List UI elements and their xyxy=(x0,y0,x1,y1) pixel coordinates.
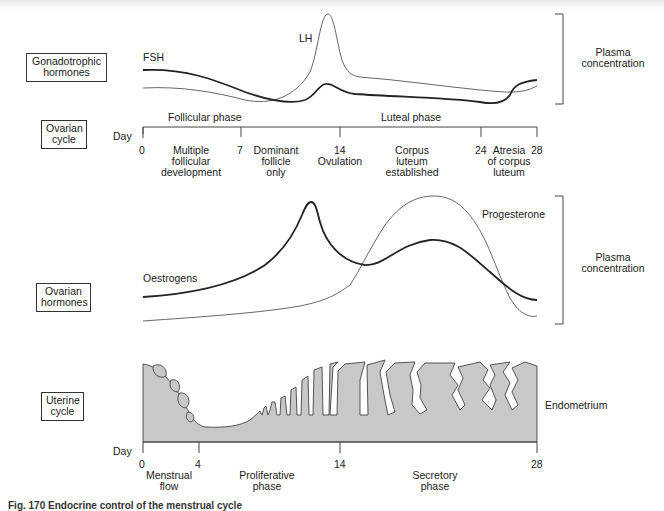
ovarian-hormones-bracket xyxy=(555,196,563,324)
label-box-uterine-cycle: Uterine cycle xyxy=(41,392,84,421)
stage-multiple-follicular: Multiple follicular development xyxy=(160,145,222,178)
stage-corpus-luteum: Corpus luteum established xyxy=(385,145,439,178)
day-label-uterine: Day xyxy=(113,446,132,457)
luteal-phase-label: Luteal phase xyxy=(381,112,441,123)
label-line: hormones xyxy=(41,297,86,308)
oestrogens-label: Oestrogens xyxy=(143,273,197,284)
uterine-tick-0: 0 xyxy=(139,459,145,470)
label-line: established xyxy=(385,167,439,178)
uterine-tick-14: 14 xyxy=(334,459,346,470)
label-line: only xyxy=(250,167,302,178)
lh-label: LH xyxy=(299,33,312,44)
label-line: flow xyxy=(143,481,195,492)
ovarian-cycle-axis xyxy=(143,127,537,138)
gonadotrophic-bracket xyxy=(555,14,563,104)
fsh-label: FSH xyxy=(143,52,164,63)
label-line: concentration xyxy=(578,263,648,274)
tick-24: 24 xyxy=(475,145,487,156)
label-line: cycle xyxy=(46,134,82,145)
label-box-gonadotrophic: Gonadotrophic hormones xyxy=(26,53,107,82)
oestrogens-curve xyxy=(143,202,537,300)
phase-menstrual-flow: Menstrual flow xyxy=(143,470,195,492)
label-line: hormones xyxy=(31,67,102,78)
endometrium-label: Endometrium xyxy=(545,400,607,411)
plasma-concentration-label-top: Plasma concentration xyxy=(578,47,648,69)
stage-atresia: Atresia of corpus luteum xyxy=(487,145,531,178)
tick-28: 28 xyxy=(531,145,543,156)
uterine-tick-4: 4 xyxy=(195,459,201,470)
stage-ovulation: Ovulation xyxy=(315,156,365,167)
follicular-phase-label: Follicular phase xyxy=(168,112,242,123)
label-line: concentration xyxy=(578,58,648,69)
uterine-day-axis xyxy=(143,442,537,453)
phase-proliferative: Proliferative phase xyxy=(236,470,298,492)
label-line: luteum xyxy=(487,167,531,178)
tick-7: 7 xyxy=(237,145,243,156)
phase-secretory: Secretory phase xyxy=(410,470,460,492)
label-line: phase xyxy=(410,481,460,492)
label-line: development xyxy=(160,167,222,178)
stage-dominant-follicle: Dominant follicle only xyxy=(250,145,302,178)
label-line: phase xyxy=(236,481,298,492)
progesterone-curve xyxy=(143,196,537,321)
endometrium-shape xyxy=(143,360,537,442)
label-line: cycle xyxy=(46,406,79,417)
figure-caption: Fig. 170 Endocrine control of the menstr… xyxy=(8,500,242,511)
plasma-concentration-label-bottom: Plasma concentration xyxy=(578,252,648,274)
label-box-ovarian-hormones: Ovarian hormones xyxy=(36,283,91,312)
uterine-tick-28: 28 xyxy=(531,459,543,470)
progesterone-label: Progesterone xyxy=(482,209,545,220)
label-box-ovarian-cycle: Ovarian cycle xyxy=(41,120,87,149)
fsh-curve xyxy=(143,70,537,103)
day-label-ovarian: Day xyxy=(113,131,132,142)
tick-0: 0 xyxy=(139,145,145,156)
